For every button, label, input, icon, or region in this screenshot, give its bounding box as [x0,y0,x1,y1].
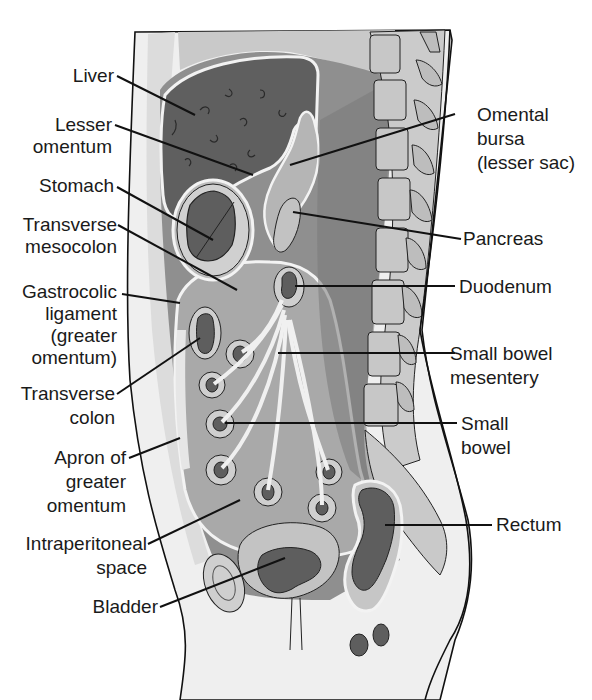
stomach [173,180,253,280]
label-bladder: Bladder [93,596,159,617]
label-transverse-mesocolon: Transversemesocolon [23,214,117,257]
label-small-bowel: Smallbowel [461,413,511,458]
label-rectum: Rectum [496,514,561,535]
label-transverse-colon: Transversecolon [21,383,115,428]
anatomy-diagram: Liver Lesseromentum Stomach Transverseme… [0,0,592,700]
label-lesser-omentum: Lesseromentum [33,114,113,157]
label-gastrocolic-ligament: Gastrocolicligament(greateromentum) [22,281,118,368]
label-stomach: Stomach [39,175,114,196]
label-small-bowel-mesentery: Small bowelmesentery [450,343,552,388]
labels-right: Omentalbursa(lesser sac) Pancreas Duoden… [450,104,575,535]
label-duodenum: Duodenum [459,276,552,297]
label-intraperitoneal-space: Intraperitonealspace [26,533,147,578]
label-pancreas: Pancreas [463,228,543,249]
label-omental-bursa: Omentalbursa(lesser sac) [477,104,575,173]
transverse-colon [189,307,221,359]
label-apron-greater-omentum: Apron ofgreateromentum [47,447,127,516]
label-liver: Liver [73,65,115,86]
